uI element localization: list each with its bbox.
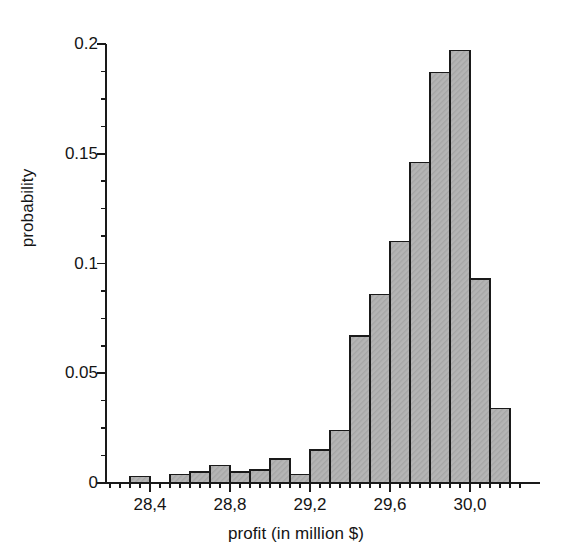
histogram-bar xyxy=(410,163,430,483)
histogram-bar xyxy=(370,294,390,483)
histogram-bar xyxy=(390,242,410,483)
histogram-bar xyxy=(190,472,210,483)
histogram-bar xyxy=(290,474,310,483)
histogram-bar xyxy=(450,51,470,483)
histogram-bar xyxy=(250,470,270,483)
plot-area xyxy=(0,0,562,560)
histogram-bar xyxy=(230,472,250,483)
histogram-bar xyxy=(330,430,350,483)
histogram-bars xyxy=(130,51,510,483)
histogram-bar xyxy=(270,459,290,483)
histogram-bar xyxy=(170,474,190,483)
histogram-bar xyxy=(430,73,450,483)
histogram-bar xyxy=(470,279,490,483)
histogram-bar xyxy=(350,336,370,483)
histogram-bar xyxy=(210,465,230,483)
histogram-figure: probability profit (in million $) 00.050… xyxy=(0,0,562,560)
histogram-bar xyxy=(490,408,510,483)
histogram-bar xyxy=(310,450,330,483)
